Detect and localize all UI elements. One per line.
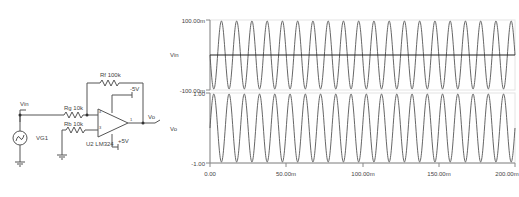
vo-ylabel: Vo <box>170 126 178 132</box>
vo-probe-label: Vo <box>148 114 156 120</box>
xtick-2: 100.00m <box>351 171 374 177</box>
pin-noninv-label: 3 <box>99 125 102 130</box>
vin-ytick-max: 100.00m <box>182 18 205 24</box>
xtick-4: 200.00m <box>495 171 518 177</box>
pin-inv-label: 4 <box>99 109 102 114</box>
rf-label: Rf 100k <box>100 72 122 78</box>
vo-ytick-min: -1.00 <box>191 161 205 167</box>
pos-supply-label: +5V <box>118 138 129 144</box>
vo-ytick-max: 1.00 <box>193 91 205 97</box>
xtick-3: 150.00m <box>427 171 450 177</box>
neg-supply-label: -5V <box>130 86 139 92</box>
rb-label: Rb 10k <box>64 121 84 127</box>
waveform-plots: 100.00m -100.00m Vin 1.00 -1.00 Vo 0.00 … <box>160 0 519 197</box>
vin-plot: 100.00m -100.00m Vin <box>170 18 515 94</box>
source-label: VG1 <box>36 135 49 141</box>
xtick-1: 50.00m <box>276 171 296 177</box>
schematic: Vin VG1 Rg 10k Rb 10k Rf 100k U2 LM324 -… <box>0 0 180 197</box>
rg-label: Rg 10k <box>64 105 84 111</box>
pin-out-label: 1 <box>130 117 133 122</box>
opamp-label: U2 LM324 <box>86 141 114 147</box>
vo-trace <box>210 94 515 162</box>
vo-plot: 1.00 -1.00 Vo 0.00 50.00m 100.00m 150.00… <box>170 91 519 177</box>
vin-probe-label: Vin <box>20 101 29 107</box>
vin-ylabel: Vin <box>170 52 179 58</box>
xtick-0: 0.00 <box>204 171 216 177</box>
